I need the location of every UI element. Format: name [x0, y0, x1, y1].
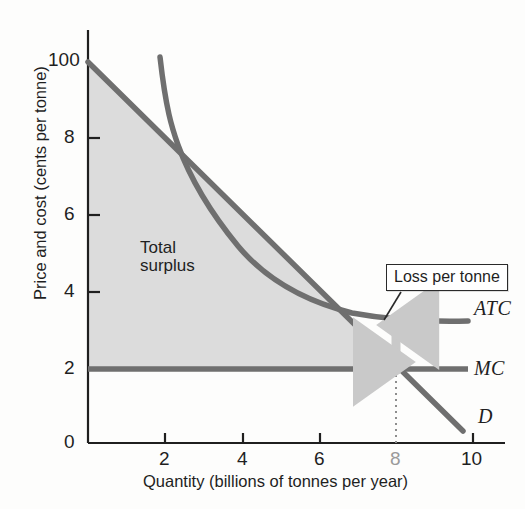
- loss-per-tonne-callout: Loss per tonne: [386, 264, 508, 291]
- mc-curve-label: MC: [474, 358, 505, 379]
- atc-curve-label: ATC: [474, 298, 511, 319]
- loss-per-tonne-leader-line: [384, 292, 401, 320]
- demand-curve-label: D: [478, 406, 493, 427]
- y-tick-label-100: 100: [48, 50, 80, 70]
- economics-chart-figure: 100 8 6 4 2 0 2 4 6 8 10 Price and cost …: [0, 0, 525, 509]
- plot-canvas: [0, 0, 525, 509]
- y-tick-label-2: 2: [64, 358, 75, 378]
- y-tick-label-0: 0: [64, 432, 75, 452]
- x-tick-label-10: 10: [461, 449, 482, 469]
- x-axis-title: Quantity (billions of tonnes per year): [143, 473, 408, 490]
- y-axis-title: Price and cost (cents per tonne): [32, 66, 49, 300]
- y-tick-label-8: 8: [64, 127, 75, 147]
- total-surplus-label-line2: surplus: [140, 257, 195, 275]
- y-tick-label-6: 6: [64, 204, 75, 224]
- x-tick-label-2: 2: [159, 449, 170, 469]
- total-surplus-label-line1: Total: [140, 239, 195, 257]
- x-tick-label-6: 6: [314, 449, 325, 469]
- equilibrium-point-marker: [391, 364, 402, 375]
- y-tick-label-4: 4: [64, 281, 75, 301]
- x-tick-label-8: 8: [390, 449, 401, 469]
- total-surplus-label: Total surplus: [140, 239, 195, 275]
- x-tick-label-4: 4: [237, 449, 248, 469]
